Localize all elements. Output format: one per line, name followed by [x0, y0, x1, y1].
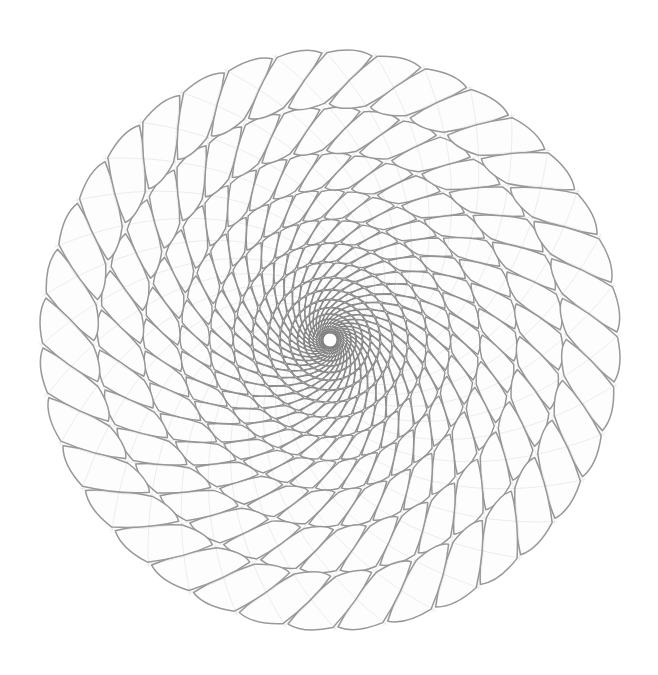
- figure-canvas: Spiral Rosette Lattice Radial sunflower-…: [0, 0, 658, 675]
- spiral-rosette-figure: Spiral Rosette Lattice Radial sunflower-…: [0, 0, 658, 675]
